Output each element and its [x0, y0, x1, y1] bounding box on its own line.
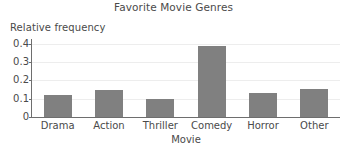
y-axis-tick-mark	[29, 62, 32, 63]
x-axis-tick-label: Action	[83, 120, 134, 131]
x-axis-line	[31, 117, 340, 118]
bar-series	[32, 40, 340, 117]
y-axis-tick-labels: 00.10.20.30.4	[0, 0, 29, 154]
y-axis-tick-label: 0.1	[3, 94, 29, 104]
y-axis-tick-label: 0	[3, 112, 29, 122]
y-axis-tick-mark	[29, 44, 32, 45]
x-axis-tick-label: Drama	[32, 120, 83, 131]
chart-title: Favorite Movie Genres	[0, 1, 347, 13]
y-axis-tick-mark	[29, 80, 32, 81]
x-axis-tick-label: Other	[289, 120, 340, 131]
bar-chart-figure: Favorite Movie Genres Relative frequency…	[0, 0, 347, 154]
x-axis-label: Movie	[32, 134, 340, 145]
bar	[95, 90, 123, 118]
bar	[249, 93, 277, 117]
y-axis-tick-mark	[29, 117, 32, 118]
bar	[44, 95, 72, 117]
y-axis-tick-label: 0.2	[3, 75, 29, 85]
x-axis-tick-label: Comedy	[186, 120, 237, 131]
bar	[146, 99, 174, 117]
bar	[300, 89, 328, 117]
y-axis-tick-label: 0.3	[3, 57, 29, 67]
bar	[198, 46, 226, 118]
x-axis-tick-label: Horror	[237, 120, 288, 131]
y-axis-tick-mark	[29, 99, 32, 100]
y-axis-tick-label: 0.4	[3, 39, 29, 49]
x-axis-tick-label: Thriller	[135, 120, 186, 131]
